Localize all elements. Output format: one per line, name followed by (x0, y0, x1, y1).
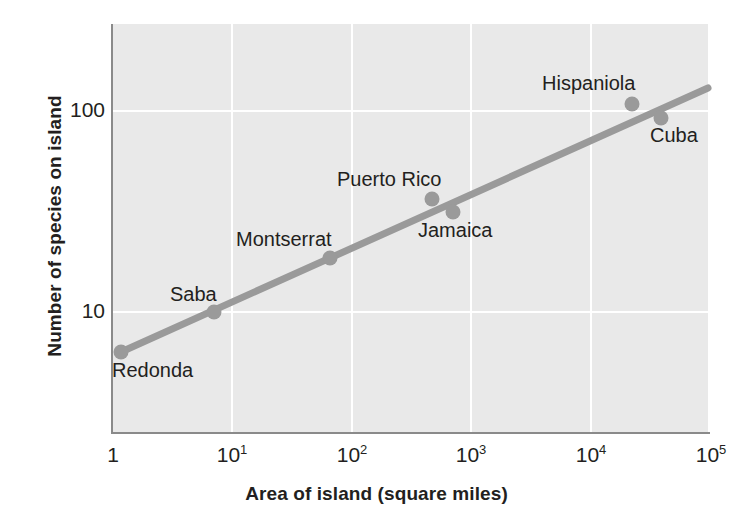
gridline-horizontal-100 (113, 110, 708, 112)
x-tick-10e2-exponent: 2 (360, 442, 367, 457)
y-tick-10: 10 (82, 299, 105, 323)
point-label-saba: Saba (170, 283, 217, 305)
x-tick-10e4-exponent: 4 (599, 442, 606, 457)
x-tick-10e3: 103 (456, 443, 487, 467)
point-label-hispaniola: Hispaniola (542, 72, 635, 94)
x-tick-1-mantissa: 1 (107, 443, 119, 466)
x-axis-line (111, 432, 710, 434)
gridline-horizontal-10 (113, 311, 708, 313)
point-label-cuba: Cuba (650, 124, 698, 146)
x-tick-10e4-mantissa: 10 (576, 443, 599, 466)
gridline-vertical-10e2 (351, 24, 353, 432)
x-tick-10e5-mantissa: 10 (696, 443, 719, 466)
point-label-redonda: Redonda (112, 359, 193, 381)
point-label-jamaica: Jamaica (418, 219, 492, 241)
gridline-vertical-10e1 (231, 24, 233, 432)
x-tick-10e3-mantissa: 10 (456, 443, 479, 466)
x-tick-10e4: 104 (576, 443, 607, 467)
point-label-puerto-rico: Puerto Rico (337, 168, 442, 190)
x-tick-10e5-exponent: 5 (719, 442, 726, 457)
x-tick-10e1-mantissa: 10 (217, 443, 240, 466)
y-axis-title: Number of species on island (44, 76, 66, 376)
chart-figure: Redonda Saba Montserrat Puerto Rico Jama… (0, 0, 753, 527)
point-label-montserrat: Montserrat (236, 228, 332, 250)
x-tick-10e2-mantissa: 10 (337, 443, 360, 466)
y-tick-100: 100 (70, 98, 105, 122)
x-tick-10e2: 102 (337, 443, 368, 467)
x-axis-title: Area of island (square miles) (0, 483, 753, 505)
x-tick-10e3-exponent: 3 (479, 442, 486, 457)
x-tick-10e1: 101 (217, 443, 248, 467)
x-tick-10e1-exponent: 1 (240, 442, 247, 457)
x-tick-10e5: 105 (696, 443, 727, 467)
x-tick-1: 1 (107, 443, 119, 467)
